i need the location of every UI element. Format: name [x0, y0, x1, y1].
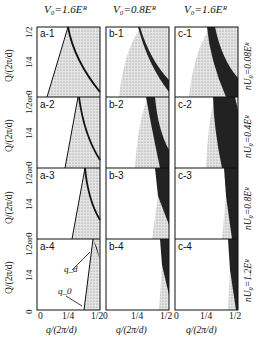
y-tick-zero: 0	[24, 310, 34, 315]
y-tick-halfor0-2: 1/2or0	[24, 162, 34, 186]
row-label-1: nU₀=0.08Eᴿ	[243, 42, 253, 90]
annotation-q0: q_0	[58, 286, 72, 296]
x-tick-b-half: 1/2	[160, 311, 172, 321]
y-axis-label-row2: Q/(2π/d)	[4, 119, 14, 152]
y-tick-halfor0-1: 1/2or0	[24, 91, 34, 115]
panel-label-a-1: a-1	[40, 28, 54, 39]
panel-label-b-3: b-3	[109, 170, 123, 181]
x-axis-label-b: q/(2π/d)	[116, 325, 147, 335]
x-tick-a-half: 1/2	[91, 311, 103, 321]
panel-label-c-2: c-2	[178, 99, 192, 110]
panel-label-a-4: a-4	[40, 241, 54, 252]
x-tick-c-0: 0	[174, 311, 179, 321]
y-tick-quarter-3: 1/4	[24, 198, 34, 210]
x-tick-b-0: 0	[103, 311, 108, 321]
y-tick-halfor0-3: 1/2or0	[24, 233, 34, 257]
y-tick-quarter-1: 1/4	[24, 56, 34, 68]
row-label-4: nU₀=1.2Eᴿ	[243, 259, 253, 302]
x-tick-b-quarter: 1/4	[131, 311, 143, 321]
row-label-3: nU₀=0.8Eᴿ	[243, 187, 253, 230]
panel-label-b-4: b-4	[109, 241, 123, 252]
x-tick-c-quarter: 1/4	[200, 311, 212, 321]
panel-label-b-2: b-2	[109, 99, 123, 110]
panel-label-c-4: c-4	[178, 241, 192, 252]
panel-label-a-3: a-3	[40, 170, 54, 181]
x-tick-a-quarter: 1/4	[62, 311, 74, 321]
x-tick-c-half: 1/2	[229, 311, 241, 321]
annotation-qd: q_d	[64, 264, 78, 274]
y-axis-label-row4: Q/(2π/d)	[4, 261, 14, 294]
x-axis-label-a: q/(2π/d)	[46, 325, 77, 335]
panel-label-c-3: c-3	[178, 170, 192, 181]
panel-label-a-2: a-2	[40, 99, 54, 110]
y-tick-half: 1/2	[24, 26, 34, 38]
y-tick-quarter-2: 1/4	[24, 127, 34, 139]
x-axis-label-c: q/(2π/d)	[186, 325, 217, 335]
y-axis-label-row1: Q/(2π/d)	[4, 49, 14, 82]
panel-label-b-1: b-1	[109, 28, 123, 39]
y-axis-label-row3: Q/(2π/d)	[4, 191, 14, 224]
y-tick-quarter-4: 1/4	[24, 269, 34, 281]
row-label-2: nU₀=0.4Eᴿ	[243, 115, 253, 158]
panel-label-c-1: c-1	[178, 28, 192, 39]
x-tick-a-0: 0	[38, 311, 43, 321]
